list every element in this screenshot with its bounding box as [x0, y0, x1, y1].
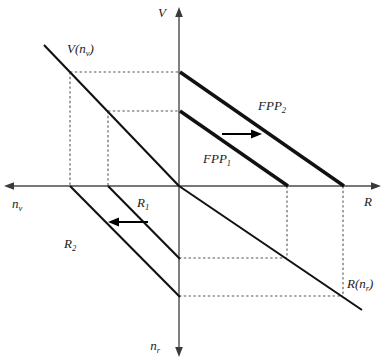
nr-axis-arrowhead: [175, 347, 183, 357]
label-nv-axis: nv: [12, 196, 23, 213]
curve-fpp1: [180, 111, 288, 186]
r-axis-arrowhead: [371, 182, 381, 190]
fpp-shift-arrow-head: [251, 130, 262, 139]
label-r1: R1: [136, 195, 149, 212]
label-nr-axis: nr: [150, 338, 161, 355]
labels-group: V R nv nr V(nv) FPP2: [12, 5, 373, 355]
shift-arrows-group: [108, 130, 262, 227]
label-r2: R2: [63, 236, 77, 253]
curve-v-function: [44, 45, 179, 186]
diagram-canvas: V R nv nr V(nv) FPP2: [0, 0, 388, 364]
guide-lines-group: [70, 72, 343, 296]
axes-group: [4, 7, 381, 357]
v-axis-arrowhead: [175, 7, 183, 17]
label-r-function: R(nr): [346, 276, 373, 293]
label-r-axis: R: [363, 194, 372, 209]
nv-axis-arrowhead: [4, 182, 14, 190]
curve-r-function: [179, 186, 362, 310]
label-v-axis: V: [158, 5, 168, 20]
label-fpp1: FPP1: [202, 151, 231, 168]
label-fpp2: FPP2: [257, 98, 287, 115]
label-v-function: V(nv): [67, 41, 94, 58]
curves-group: [44, 45, 362, 310]
